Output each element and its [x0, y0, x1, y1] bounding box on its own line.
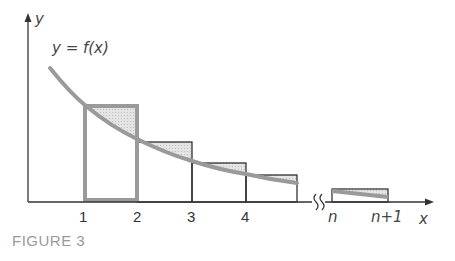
x-tick-3: 3	[187, 208, 195, 225]
x-tick-2: 2	[133, 208, 141, 225]
axis-break-icon	[314, 194, 324, 210]
y-axis-label: y	[34, 10, 45, 28]
x-axis-arrow-icon	[425, 199, 434, 206]
x-axis-label: x	[418, 210, 428, 228]
x-tick-1: 1	[79, 208, 87, 225]
shaded-error-regions	[86, 106, 388, 197]
y-axis-arrow-icon	[25, 13, 32, 22]
curve-f	[50, 68, 297, 183]
function-label: y = f(x)	[51, 39, 109, 57]
integral-test-figure: y y = f(x) x 1 2 3 4 n n+1	[0, 0, 455, 261]
x-tick-4: 4	[241, 208, 249, 225]
x-tick-n: n	[328, 208, 338, 226]
figure-caption: FIGURE 3	[12, 232, 85, 249]
x-tick-n-plus-1: n+1	[371, 208, 403, 226]
